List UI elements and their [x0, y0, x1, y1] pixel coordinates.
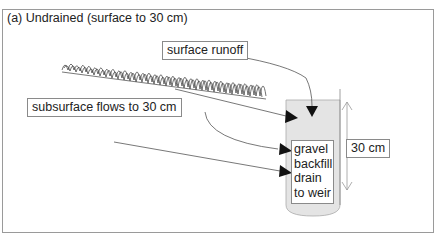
drain-line: to weir	[294, 186, 331, 201]
depth-label: 30 cm	[346, 139, 390, 158]
diagram-graphics	[0, 0, 440, 243]
surface-runoff-label: surface runoff	[162, 41, 248, 60]
drain-description: gravel backfill drain to weir	[291, 140, 334, 204]
subsurface-flows-label: subsurface flows to 30 cm	[27, 98, 182, 117]
drain-line: backfill	[294, 157, 331, 172]
ground-surface-line	[62, 72, 266, 99]
grass-strip	[62, 64, 266, 97]
diagram-title: (a) Undrained (surface to 30 cm)	[7, 11, 188, 25]
surface-runoff-arrow	[235, 56, 312, 106]
drain-line: gravel	[294, 142, 331, 157]
drain-line: drain	[294, 171, 331, 186]
